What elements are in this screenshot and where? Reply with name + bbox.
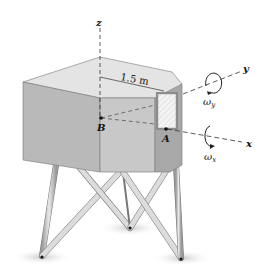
cabin-front-middle-face	[100, 98, 155, 172]
omega-y-label: ωy	[203, 96, 216, 109]
omega-x-label: ωx	[204, 151, 216, 164]
support-legs	[42, 165, 181, 258]
point-a-label: A	[161, 133, 170, 144]
x-axis-label: x	[245, 138, 253, 149]
rotation-arrow-icon	[206, 73, 222, 93]
flight-simulator-diagram: z 1.5 m y x ωy ωx B A	[0, 0, 268, 278]
y-axis-label: y	[242, 63, 250, 74]
cabin-window	[156, 92, 178, 130]
z-axis-label: z	[95, 17, 102, 28]
omega-x-rotation: ωx	[204, 126, 216, 164]
point-b-label: B	[96, 122, 105, 133]
omega-y-rotation: ωy	[203, 73, 222, 109]
cabin-front-left-face	[23, 82, 100, 172]
